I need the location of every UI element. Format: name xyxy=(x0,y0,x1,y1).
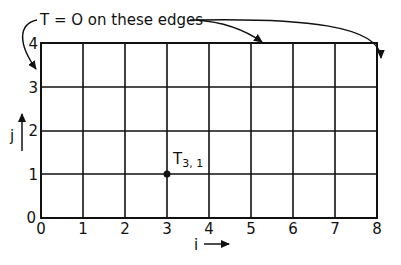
i-tick: 5 xyxy=(246,220,256,238)
j-tick: 2 xyxy=(28,122,38,140)
point-marker xyxy=(164,171,171,178)
i-tick: 6 xyxy=(288,220,298,238)
i-tick: 4 xyxy=(204,220,214,238)
i-tick: 2 xyxy=(120,220,130,238)
j-tick: 3 xyxy=(28,79,38,97)
point-label: T3, 1 xyxy=(172,150,203,170)
grid-lines xyxy=(41,43,377,218)
grid-diagram: 0 1 2 3 4 5 6 7 8 0 1 2 3 4 i j T3, 1 T … xyxy=(0,0,401,265)
annotation-text: T = O on these edges xyxy=(39,11,203,29)
arrow-right-edge-icon xyxy=(196,20,381,58)
j-tick: 4 xyxy=(28,35,38,53)
i-tick: 8 xyxy=(372,220,382,238)
j-tick: 1 xyxy=(28,166,38,184)
i-axis-label: i xyxy=(194,236,198,254)
i-tick: 1 xyxy=(78,220,88,238)
i-tick-labels: 0 1 2 3 4 5 6 7 8 xyxy=(36,220,382,238)
i-tick: 0 xyxy=(36,220,46,238)
i-tick: 7 xyxy=(330,220,340,238)
j-axis-label: j xyxy=(9,127,14,145)
j-tick: 0 xyxy=(26,209,36,227)
i-tick: 3 xyxy=(162,220,172,238)
